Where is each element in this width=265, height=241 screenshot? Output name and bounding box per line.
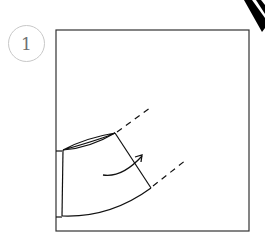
corner-stripe-icon [244, 0, 265, 32]
continuation-dashes [117, 108, 186, 186]
frame [56, 30, 249, 231]
diagram-illustration [0, 0, 265, 241]
